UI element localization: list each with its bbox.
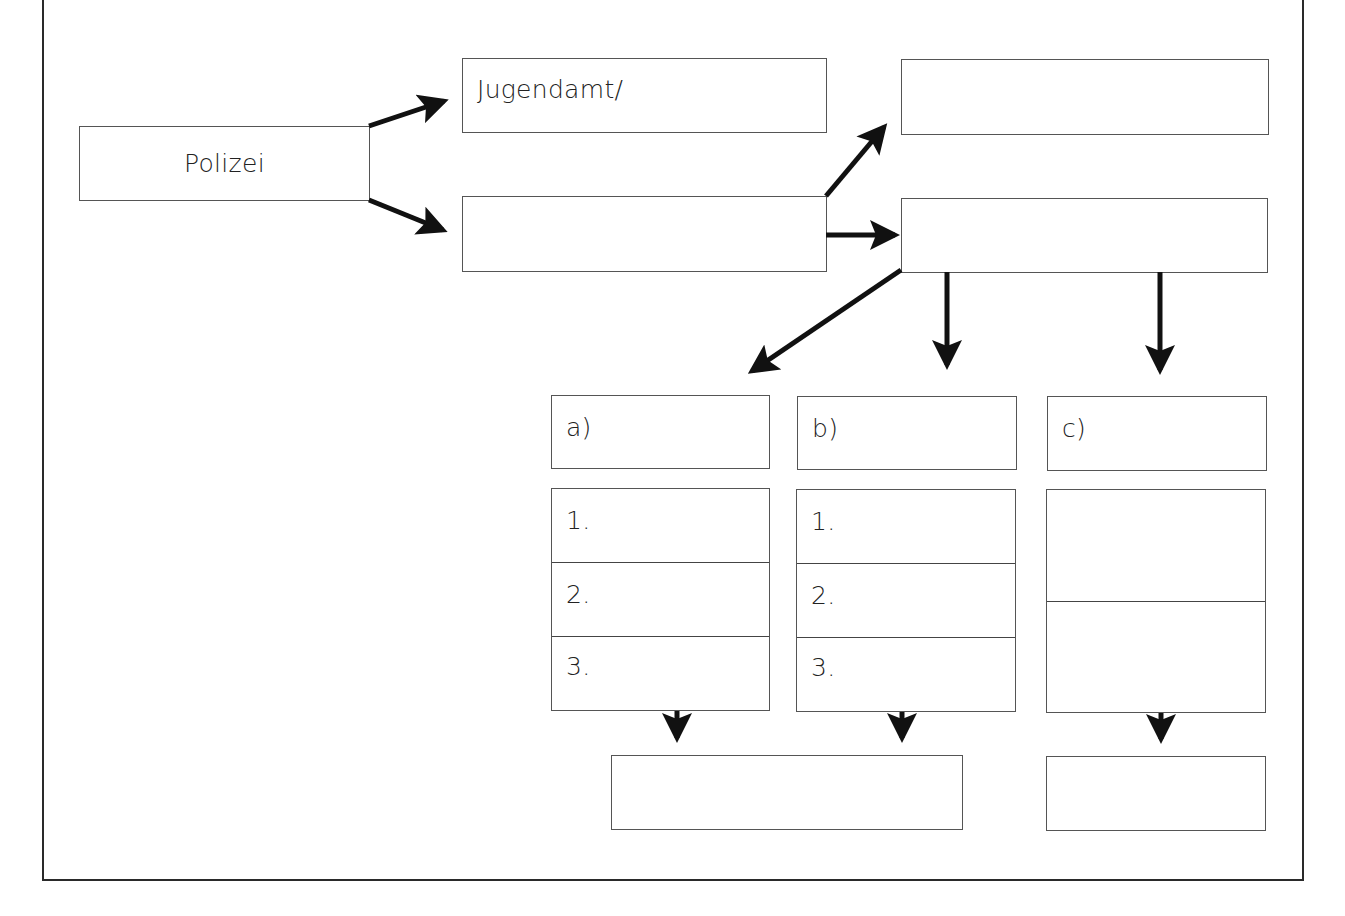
list-c-row-2 xyxy=(1047,602,1265,712)
list-a-row-1-label: 1. xyxy=(566,506,590,535)
node-list-a: 1. 2. 3. xyxy=(551,488,770,711)
list-a-row-3: 3. xyxy=(552,637,769,710)
node-youth-office-label: Jugendamt/ xyxy=(477,75,623,104)
list-a-row-3-label: 3. xyxy=(566,652,590,681)
node-list-b: 1. 2. 3. xyxy=(796,489,1016,712)
list-a-row-1: 1. xyxy=(552,489,769,563)
list-b-row-1-label: 1. xyxy=(811,507,835,536)
list-a-row-2-label: 2. xyxy=(566,580,590,609)
node-option-a: a) xyxy=(551,395,770,469)
node-option-a-label: a) xyxy=(566,413,592,442)
list-b-row-2: 2. xyxy=(797,564,1015,638)
node-top-right xyxy=(901,59,1269,135)
node-option-b: b) xyxy=(797,396,1017,470)
list-c-row-1 xyxy=(1047,490,1265,602)
node-mid-right xyxy=(901,198,1268,273)
node-police: Polizei xyxy=(79,126,370,201)
list-a-row-2: 2. xyxy=(552,563,769,637)
node-middle xyxy=(462,196,827,272)
list-b-row-2-label: 2. xyxy=(811,581,835,610)
node-result-ab xyxy=(611,755,963,830)
node-list-c xyxy=(1046,489,1266,713)
list-b-row-3-label: 3. xyxy=(811,653,835,682)
list-b-row-3: 3. xyxy=(797,638,1015,711)
node-option-c: c) xyxy=(1047,396,1267,471)
node-option-b-label: b) xyxy=(812,414,838,443)
node-option-c-label: c) xyxy=(1062,414,1086,443)
node-youth-office: Jugendamt/ xyxy=(462,58,827,133)
node-police-label: Polizei xyxy=(80,127,369,200)
node-result-c xyxy=(1046,756,1266,831)
list-b-row-1: 1. xyxy=(797,490,1015,564)
